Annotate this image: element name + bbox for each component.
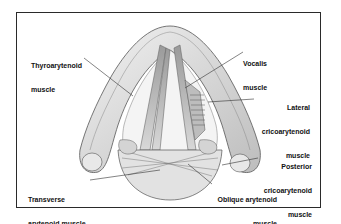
label-thyroarytenoid: Thyroarytenoid muscle (31, 46, 82, 102)
label-line: arytenoid muscle (28, 220, 86, 224)
label-line: Oblique arytenoid (205, 196, 277, 204)
label-line: Vocalis (243, 60, 267, 68)
label-oblique-arytenoid: Oblique arytenoid muscle (205, 180, 277, 224)
label-line: Posterior (256, 163, 312, 171)
left-cornu (82, 153, 102, 171)
label-line: muscle (205, 220, 277, 224)
label-line: Lateral (256, 104, 310, 112)
label-line: Transverse (28, 196, 86, 204)
label-line: cricoarytenoid (256, 128, 310, 136)
label-transverse-arytenoid: Transverse arytenoid muscle (28, 180, 86, 224)
label-line: muscle (31, 86, 82, 94)
label-line: Thyroarytenoid (31, 62, 82, 70)
